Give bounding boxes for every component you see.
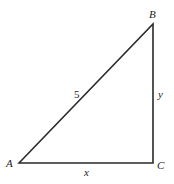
vertex-label-c: C — [157, 159, 165, 171]
right-triangle-diagram: A B C 5 y x — [0, 0, 174, 184]
horizontal-leg-label: x — [83, 166, 89, 178]
vertex-label-a: A — [5, 157, 13, 169]
vertical-leg-label: y — [157, 88, 163, 100]
vertex-label-b: B — [149, 8, 156, 20]
hypotenuse-label: 5 — [74, 88, 80, 100]
triangle-abc — [19, 24, 153, 163]
